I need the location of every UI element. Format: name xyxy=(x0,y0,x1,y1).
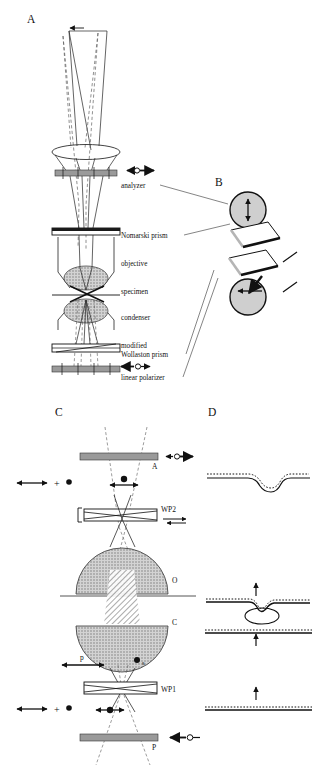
panel-a-label-linear-polarizer: linear polarizer xyxy=(121,374,165,382)
panel-c-wollaston-prism-1-element xyxy=(84,682,157,694)
panel-c-label-p: p xyxy=(80,653,84,662)
plus-sign-bottom: + xyxy=(54,704,60,715)
panel-a-label-wollaston-line1: modified xyxy=(121,342,147,350)
background xyxy=(0,0,317,773)
panel-a-label-specimen: specimen xyxy=(121,288,149,296)
panel-c-label: C xyxy=(55,406,63,418)
panel-a-label-analyzer: analyzer xyxy=(121,182,146,190)
panel-a-label: A xyxy=(27,13,36,25)
panel-c-analyzer-element xyxy=(80,453,158,460)
panel-b-label: B xyxy=(215,176,223,188)
panel-a-label-objective: objective xyxy=(121,260,147,268)
panel-c-label-polarizer: P xyxy=(152,743,156,752)
panel-a-wollaston-prism-element xyxy=(52,344,120,352)
panel-a-label-wollaston-line2: Wollaston prism xyxy=(121,351,169,359)
panel-b-upper-polarizer-disc xyxy=(230,192,266,228)
panel-a-label-nomarski-prism: Nomarski prism xyxy=(121,232,168,240)
panel-c-wollaston-prism-2-element xyxy=(78,508,157,522)
panel-c-sheared-beam-hatch xyxy=(104,570,140,624)
panel-c-label-analyzer: A xyxy=(152,462,158,471)
panel-c-label-objective: O xyxy=(172,576,178,585)
figure-canvas: A xyxy=(0,0,317,773)
dic-microscopy-figure: A xyxy=(0,0,317,773)
plus-sign-top: + xyxy=(54,478,60,489)
panel-c-label-wp2: WP2 xyxy=(161,505,176,514)
panel-d-label: D xyxy=(208,406,216,418)
panel-a-nomarski-prism-element xyxy=(52,228,120,235)
panel-c-label-condenser: C xyxy=(172,618,177,627)
panel-c-label-wp1: WP1 xyxy=(161,685,176,694)
panel-c-polarizer-element xyxy=(80,734,158,741)
panel-a-label-condenser: condenser xyxy=(121,314,151,322)
